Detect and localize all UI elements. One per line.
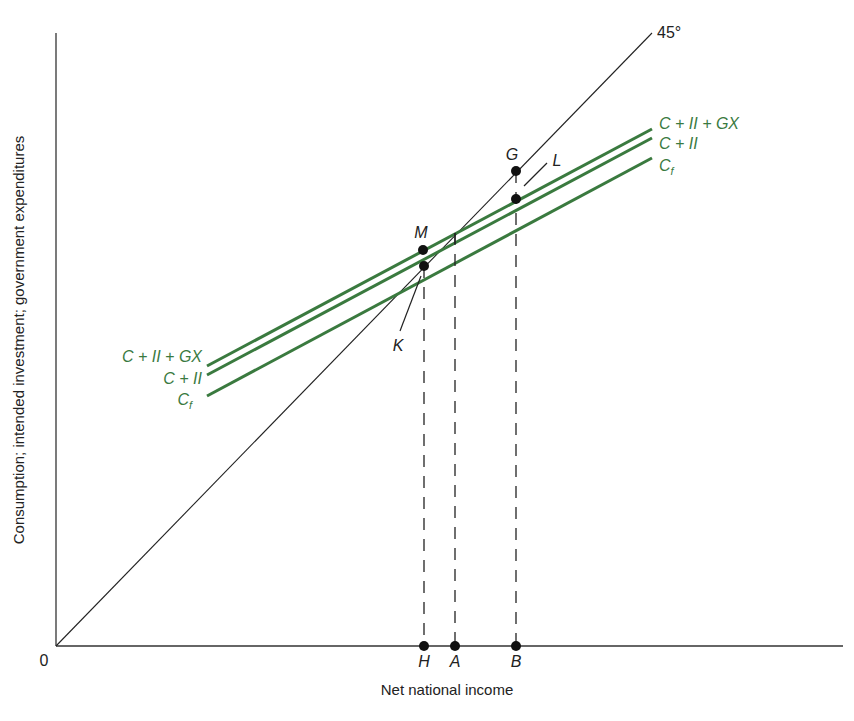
label-b: B xyxy=(511,653,522,670)
label-right-cf: Cf xyxy=(659,157,675,177)
point-k xyxy=(419,261,429,271)
point-g xyxy=(511,166,521,176)
diagram-canvas: 45° C + II + GX C + II Cf C + II + GX C … xyxy=(0,0,854,721)
line-cf xyxy=(207,158,652,396)
point-l xyxy=(511,194,521,204)
label-right-c-ii: C + II xyxy=(659,135,698,152)
leader-k xyxy=(400,276,421,331)
leader-l xyxy=(524,163,547,186)
label-left-c-ii-gx: C + II + GX xyxy=(122,348,203,365)
45-degree-line xyxy=(56,33,652,646)
label-right-c-ii-gx: C + II + GX xyxy=(659,115,740,132)
label-h: H xyxy=(418,653,430,670)
point-m xyxy=(418,245,428,255)
label-a: A xyxy=(449,653,461,670)
label-left-c-ii: C + II xyxy=(163,370,202,387)
point-a xyxy=(450,641,460,651)
label-g: G xyxy=(506,146,518,163)
label-k: K xyxy=(393,337,405,354)
point-h xyxy=(419,641,429,651)
point-b xyxy=(511,641,521,651)
label-m: M xyxy=(414,224,428,241)
line-c-ii xyxy=(207,138,652,375)
line-c-ii-gx xyxy=(207,129,652,366)
label-left-cf: Cf xyxy=(177,391,193,411)
x-axis-title: Net national income xyxy=(381,681,514,698)
label-l: L xyxy=(553,152,562,169)
y-axis-title: Consumption; intended investment; govern… xyxy=(10,136,27,545)
origin-label: 0 xyxy=(40,652,49,669)
label-45deg: 45° xyxy=(657,24,681,41)
